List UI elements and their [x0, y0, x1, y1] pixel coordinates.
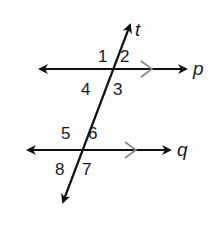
angle-label-2: 2	[120, 47, 129, 66]
angle-label-4: 4	[81, 80, 90, 99]
line-q	[28, 142, 170, 158]
angle-label-8: 8	[55, 160, 64, 179]
angle-label-5: 5	[61, 124, 70, 143]
angle-label-7: 7	[82, 160, 91, 179]
angle-label-6: 6	[88, 124, 97, 143]
angle-label-3: 3	[113, 80, 122, 99]
label-q: q	[177, 139, 188, 160]
label-p: p	[192, 58, 204, 79]
diagram-canvas: t p q 1 2 3 4 5 6 7 8	[0, 0, 216, 227]
angle-label-1: 1	[98, 47, 107, 66]
geometry-figure: t p q 1 2 3 4 5 6 7 8	[0, 0, 216, 227]
label-t: t	[135, 19, 141, 40]
